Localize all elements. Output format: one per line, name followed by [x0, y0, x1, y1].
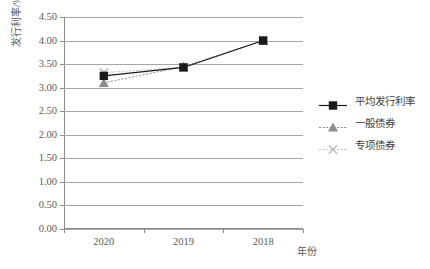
legend-label: 平均发行利率 — [355, 97, 415, 108]
gridline — [64, 229, 303, 230]
y-tick-label: 2.50 — [39, 106, 57, 117]
x-tick-label: 2020 — [93, 237, 114, 248]
data-point-square — [329, 101, 337, 109]
x-tick-mark — [303, 229, 304, 233]
y-tick-label: 3.50 — [39, 59, 57, 70]
legend-item-0[interactable]: 平均发行利率 — [318, 97, 415, 108]
data-point-square — [259, 36, 267, 44]
legend-label: 专项债券 — [355, 141, 395, 152]
x-tick-mark — [64, 229, 65, 233]
data-point-triangle — [328, 123, 338, 132]
x-tick-label: 2019 — [173, 237, 194, 248]
legend-label: 一般债券 — [355, 119, 395, 130]
x-tick-mark — [144, 229, 145, 233]
y-tick-label: 1.00 — [39, 177, 57, 188]
chart-container: 发行利率/% 4.504.003.503.002.502.001.501.000… — [0, 0, 430, 269]
y-tick-label: 0.50 — [39, 200, 57, 211]
x-tick-mark — [223, 229, 224, 233]
y-tick-label: 2.00 — [39, 130, 57, 141]
legend-item-2[interactable]: 专项债券 — [318, 141, 415, 152]
y-tick-label: 0.00 — [39, 224, 57, 235]
y-axis-title: 发行利率/% — [8, 0, 23, 65]
y-tick-label: 1.50 — [39, 153, 57, 164]
y-tick-label: 4.50 — [39, 12, 57, 23]
chart-legend: 平均发行利率一般债券专项债券 — [318, 97, 415, 152]
legend-marker-square-icon — [318, 97, 348, 108]
plot-area: 4.504.003.503.002.502.001.501.000.500.00… — [64, 17, 303, 229]
y-tick-label: 3.00 — [39, 82, 57, 93]
x-axis-title: 年份 — [297, 243, 317, 258]
x-tick-label: 2018 — [253, 237, 274, 248]
data-point-square — [100, 72, 108, 80]
legend-marker-x-icon — [318, 141, 348, 152]
data-series-layer — [64, 17, 303, 229]
legend-item-1[interactable]: 一般债券 — [318, 119, 415, 130]
data-point-square — [179, 63, 187, 71]
y-tick-label: 4.00 — [39, 35, 57, 46]
legend-marker-triangle-icon — [318, 119, 348, 130]
